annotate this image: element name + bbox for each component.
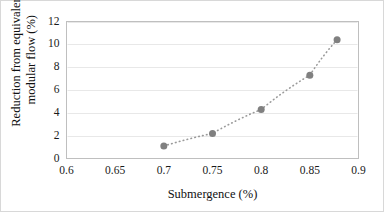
y-axis-tick-label: 0 — [54, 153, 60, 165]
x-axis-title: Submergence (%) — [66, 187, 359, 202]
data-point-marker — [306, 72, 313, 79]
data-point-marker — [258, 106, 265, 113]
y-axis-tick-label: 4 — [54, 107, 60, 119]
x-axis-tick-label: 0.6 — [47, 165, 87, 177]
chart-figure: 024681012 0.60.650.70.750.80.850.9 Reduc… — [0, 0, 384, 212]
y-axis-tick-label: 10 — [48, 38, 60, 50]
y-axis-tick-label: 2 — [54, 130, 60, 142]
y-axis-tick-label: 8 — [54, 61, 60, 73]
data-point-marker — [160, 142, 167, 149]
gridlines — [68, 23, 358, 137]
x-axis-tick-label: 0.7 — [144, 165, 184, 177]
x-axis-tick-label: 0.75 — [193, 165, 233, 177]
y-axis-tick-label: 12 — [48, 16, 60, 28]
y-axis-title-line-2: modular flow (%) — [24, 0, 39, 130]
x-axis-tick-label: 0.8 — [241, 165, 281, 177]
data-point-markers — [160, 36, 340, 149]
y-axis-title: Reduction from equivalent modular flow (… — [9, 0, 39, 130]
data-point-marker — [334, 36, 341, 43]
data-point-marker — [209, 130, 216, 137]
y-axis-title-line-1: Reduction from equivalent — [9, 0, 24, 130]
x-axis-tick-label: 0.65 — [95, 165, 135, 177]
x-axis-tick-label: 0.9 — [339, 165, 379, 177]
y-axis-tick-label: 6 — [54, 84, 60, 96]
x-axis-tick-label: 0.85 — [290, 165, 330, 177]
trendline — [164, 40, 337, 146]
